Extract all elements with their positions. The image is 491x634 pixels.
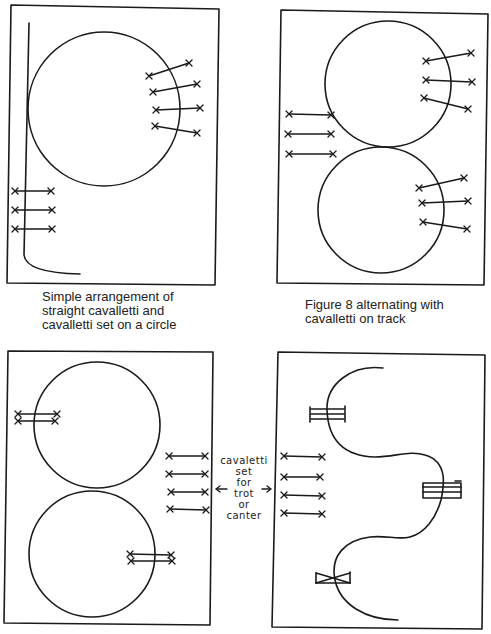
panel-3-drawing [4, 351, 213, 625]
panel-2-caption: Figure 8 alternating with cavalletti on … [305, 298, 444, 326]
annotation-line-4: trot [216, 488, 272, 499]
annotation-line-6: canter [216, 510, 272, 521]
annotation-line-1: cavaletti [216, 455, 272, 466]
panel-4-straight-cavalletti [281, 453, 325, 517]
annotation-line-5: or [216, 499, 272, 510]
cavalletti-annotation: cavaletti set for trot or canter [216, 455, 272, 521]
panel-2-drawing [277, 10, 488, 285]
panel-3-top-circle [34, 362, 160, 488]
panel-1-arena [7, 5, 219, 285]
panel-4-arena [272, 352, 485, 629]
panel-1-track-line [24, 23, 80, 274]
panel-4-obstacle-1 [310, 406, 345, 422]
panel-1-straight-cavalletti [12, 188, 55, 232]
panel-3-top-double-cavalletti [15, 411, 60, 424]
panel-3-arena [4, 351, 213, 625]
panel-4-drawing [272, 352, 485, 629]
panel-1-circle-cavalletti [146, 60, 203, 136]
panel-4-obstacle-3 [316, 572, 350, 583]
panel-3-bottom-double-cavalletti [127, 551, 175, 564]
annotation-line-3: for [216, 477, 272, 488]
cavalletti-arrangements-diagram: Simple arrangement of straight cavallett… [0, 0, 491, 634]
panel-1-caption: Simple arrangement of straight cavallett… [42, 290, 176, 332]
annotation-line-2: set [216, 466, 272, 477]
panel-3-straight-cavalletti [166, 453, 209, 513]
panel-2-bottom-circle [318, 147, 444, 273]
panel-1-drawing [7, 5, 219, 285]
panel-2-track-cavalletti [285, 111, 336, 157]
panel-2-top-circle [325, 21, 451, 147]
